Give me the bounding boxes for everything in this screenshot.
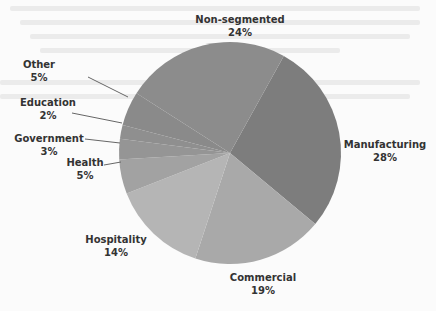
pie-slices bbox=[119, 42, 341, 264]
label-health: Health 5% bbox=[66, 156, 103, 182]
label-name: Non-segmented bbox=[195, 13, 284, 26]
label-name: Commercial bbox=[230, 271, 296, 284]
label-name: Hospitality bbox=[85, 233, 146, 246]
label-name: Health bbox=[66, 156, 103, 169]
leader-line-education bbox=[72, 113, 122, 123]
label-name: Education bbox=[20, 96, 76, 109]
leader-line-other bbox=[88, 77, 128, 97]
label-non-segmented: Non-segmented 24% bbox=[195, 13, 284, 39]
label-name: Other bbox=[23, 58, 55, 71]
label-percent: 5% bbox=[66, 169, 103, 182]
label-commercial: Commercial 19% bbox=[230, 271, 296, 297]
label-name: Government bbox=[14, 132, 84, 145]
label-government: Government 3% bbox=[14, 132, 84, 158]
label-hospitality: Hospitality 14% bbox=[85, 233, 146, 259]
label-percent: 5% bbox=[23, 71, 55, 84]
label-percent: 28% bbox=[344, 151, 427, 164]
label-percent: 2% bbox=[20, 109, 76, 122]
label-manufacturing: Manufacturing 28% bbox=[344, 138, 427, 164]
label-other: Other 5% bbox=[23, 58, 55, 84]
leader-line-government bbox=[85, 139, 120, 143]
label-percent: 19% bbox=[230, 284, 296, 297]
label-percent: 14% bbox=[85, 246, 146, 259]
label-name: Manufacturing bbox=[344, 138, 427, 151]
leader-line-health bbox=[104, 162, 121, 165]
label-education: Education 2% bbox=[20, 96, 76, 122]
label-percent: 24% bbox=[195, 26, 284, 39]
